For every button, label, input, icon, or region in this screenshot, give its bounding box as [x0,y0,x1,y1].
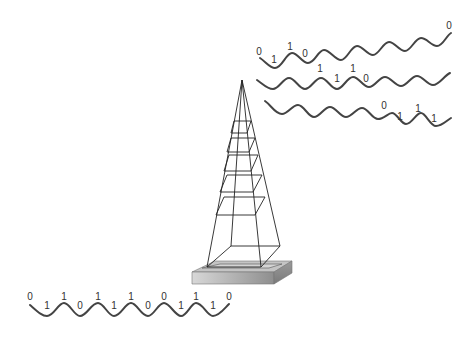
bit-label: 0 [27,291,33,302]
bit-label: 0 [161,291,167,302]
bit-label: 0 [381,100,387,111]
bit-label: 0 [256,46,262,57]
bit-label: 1 [287,41,293,52]
bit-label: 0 [145,300,151,311]
bit-label: 0 [77,300,83,311]
bit-label: 1 [350,63,356,74]
bit-label: 1 [178,300,184,311]
input-wave [30,303,229,316]
diagram-canvas: 0110111001110 0110011100111 [0,0,476,340]
bit-label: 1 [317,63,323,74]
bit-label: 1 [334,73,340,84]
output-wave-2 [257,73,450,89]
bit-label: 0 [363,73,369,84]
bit-label: 1 [44,300,50,311]
bit-label: 0 [446,20,452,31]
bit-label: 1 [431,113,437,124]
input-signal: 0110111001110 [27,291,232,316]
bit-label: 0 [226,291,232,302]
output-signal-2 [257,73,450,89]
tower-base [192,261,292,284]
bit-label: 1 [128,291,134,302]
bit-label: 1 [397,111,403,122]
transmission-tower [207,80,280,267]
bit-label: 1 [95,291,101,302]
output-bit-labels: 0110011100111 [256,20,452,124]
output-wave-3 [265,101,451,126]
bit-label: 0 [302,48,308,59]
output-signal-3 [265,101,451,126]
bit-label: 1 [415,103,421,114]
bit-label: 1 [210,300,216,311]
bit-label: 1 [61,291,67,302]
bit-label: 1 [271,54,277,65]
bit-label: 1 [193,291,199,302]
bit-label: 1 [111,300,117,311]
